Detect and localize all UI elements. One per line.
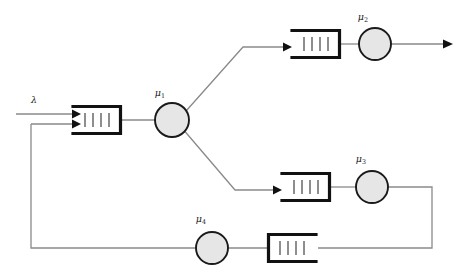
feedback-entry-arrowhead xyxy=(72,120,81,129)
server4-feedback-edge xyxy=(31,124,196,248)
server1-to-queue2-edge xyxy=(187,43,293,111)
server-mu1 xyxy=(155,103,189,137)
server1-to-queue3-edge xyxy=(185,132,282,195)
arrival-arrowhead xyxy=(72,110,81,119)
server2-exit-edge xyxy=(391,40,453,49)
mu1-subscript: 1 xyxy=(161,92,165,100)
server-mu2 xyxy=(359,28,391,60)
mu3-subscript: 3 xyxy=(362,158,366,166)
queue-2 xyxy=(292,31,340,58)
mu4-subscript: 4 xyxy=(202,218,206,226)
feedback-entry-edge xyxy=(31,120,81,129)
queue-layer xyxy=(73,31,340,262)
queue-4-ticks xyxy=(280,241,304,255)
queue-1-ticks xyxy=(85,113,109,127)
queue-2-ticks xyxy=(304,37,328,51)
mu1-label: μ1 xyxy=(155,87,165,100)
queue-3 xyxy=(282,174,330,201)
edge-layer xyxy=(16,40,453,249)
queue2-inlet-arrowhead xyxy=(283,43,292,52)
queueing-network-diagram: λ μ1 μ2 μ3 μ4 xyxy=(0,0,461,278)
arrival-rate-label: λ xyxy=(30,94,37,105)
queue3-inlet-arrowhead xyxy=(273,186,282,195)
queue-3-ticks xyxy=(294,180,318,194)
diagram-canvas: λ μ1 μ2 μ3 μ4 xyxy=(0,0,461,278)
server-mu3 xyxy=(356,171,388,203)
mu2-subscript: 2 xyxy=(364,16,368,24)
server-layer xyxy=(155,28,391,264)
server-mu4 xyxy=(196,232,228,264)
mu3-label: μ3 xyxy=(356,153,366,166)
label-layer: λ μ1 μ2 μ3 μ4 xyxy=(30,11,368,226)
arrival-edge xyxy=(16,110,81,119)
mu4-label: μ4 xyxy=(196,213,206,226)
queue-1 xyxy=(73,107,121,134)
queue-4 xyxy=(269,235,317,262)
exit-arrowhead xyxy=(443,40,453,49)
mu2-label: μ2 xyxy=(358,11,368,24)
